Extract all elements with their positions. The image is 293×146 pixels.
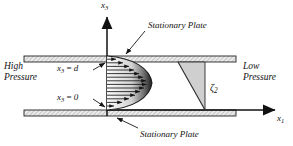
- shear-element: [178, 62, 205, 110]
- axis-label-horizontal: x1: [277, 113, 284, 124]
- label-boundary-top: x3 = d: [57, 63, 78, 74]
- leader-boundary-bottom: [93, 99, 105, 107]
- label-boundary-bottom: x3 = 0: [57, 92, 78, 103]
- low-pressure-line-2: Pressure: [243, 72, 276, 83]
- label-stationary-plate-bottom: Stationary Plate: [140, 129, 199, 139]
- velocity-profile: [107, 56, 152, 110]
- leader-plate-bottom: [117, 118, 138, 128]
- label-low-pressure: Low Pressure: [243, 61, 276, 82]
- figure-canvas: x3 x1 Stationary Plate Stationary Plate …: [0, 0, 293, 146]
- label-high-pressure: High Pressure: [4, 61, 37, 82]
- stationary-plate-bottom: [24, 110, 236, 116]
- leader-plate-top: [126, 31, 145, 54]
- label-stationary-plate-top: Stationary Plate: [148, 20, 207, 30]
- high-pressure-line-1: High: [4, 61, 37, 72]
- label-shear-element: ζ2: [210, 82, 218, 95]
- low-pressure-line-1: Low: [243, 61, 276, 72]
- high-pressure-line-2: Pressure: [4, 72, 37, 83]
- axis-label-vertical: x3: [101, 0, 108, 11]
- leader-boundary-top: [93, 63, 105, 70]
